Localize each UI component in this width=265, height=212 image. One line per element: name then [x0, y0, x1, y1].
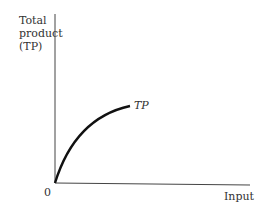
origin-label: 0 — [44, 186, 51, 199]
x-axis-label: Input — [224, 190, 254, 203]
tp-curve — [55, 106, 130, 183]
y-label-line-1: Total — [19, 14, 63, 27]
y-label-line-2: product — [19, 27, 63, 40]
y-label-line-3: (TP) — [19, 40, 63, 53]
x-axis — [55, 183, 250, 185]
y-axis-label: Total product (TP) — [19, 14, 63, 53]
series-label-tp: TP — [134, 99, 149, 112]
